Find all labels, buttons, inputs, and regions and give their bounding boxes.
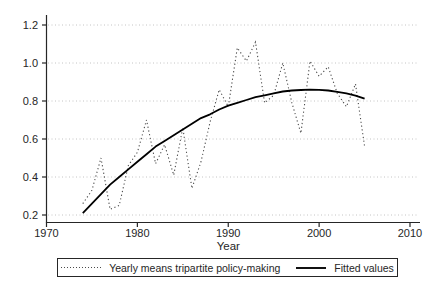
x-tick-label: 1990	[208, 227, 248, 240]
legend: Yearly means tripartite policy-making Fi…	[57, 258, 398, 277]
legend-item-fitted-values: Fitted values	[296, 262, 394, 274]
yearly-means-series-line	[83, 42, 365, 209]
solid-line-sample-icon	[296, 267, 326, 269]
dotted-line-sample-icon	[61, 267, 101, 268]
legend-label: Yearly means tripartite policy-making	[109, 262, 280, 274]
x-tick-label: 1980	[117, 227, 157, 240]
y-tick-label: 0.6	[8, 133, 38, 146]
y-tick-label: 0.4	[8, 171, 38, 184]
legend-item-yearly-means: Yearly means tripartite policy-making	[61, 262, 280, 274]
x-tick-label: 2010	[390, 227, 430, 240]
y-tick-label: 0.8	[8, 95, 38, 108]
fitted-values-series-line	[83, 90, 365, 214]
x-tick-label: 1970	[27, 227, 67, 240]
x-tick-label: 2000	[299, 227, 339, 240]
chart-figure: 1.2 1.0 0.8 0.6 0.4 0.2 1970 1980 1990 2…	[0, 0, 434, 292]
y-tick-label: 0.2	[8, 209, 38, 222]
legend-label: Fitted values	[334, 262, 394, 274]
y-tick-label: 1.2	[8, 19, 38, 32]
y-tick-label: 1.0	[8, 57, 38, 70]
x-axis-title: Year	[198, 240, 258, 252]
